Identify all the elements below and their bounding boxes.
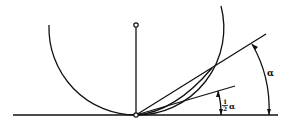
alpha-arrowhead-bottom (267, 109, 271, 115)
center-point-marker (134, 23, 138, 27)
geometry-diagram: α 1 2 α (0, 0, 290, 131)
alpha-arrowhead-top (252, 44, 258, 50)
tangent-point-marker (134, 113, 138, 117)
alpha-angle-arc (252, 44, 269, 115)
alpha-line (136, 34, 266, 115)
alpha-label: α (267, 68, 274, 78)
half-alpha-numerator: 1 (223, 98, 227, 105)
half-alpha-symbol: α (229, 101, 235, 111)
half-alpha-denominator: 2 (223, 105, 227, 112)
